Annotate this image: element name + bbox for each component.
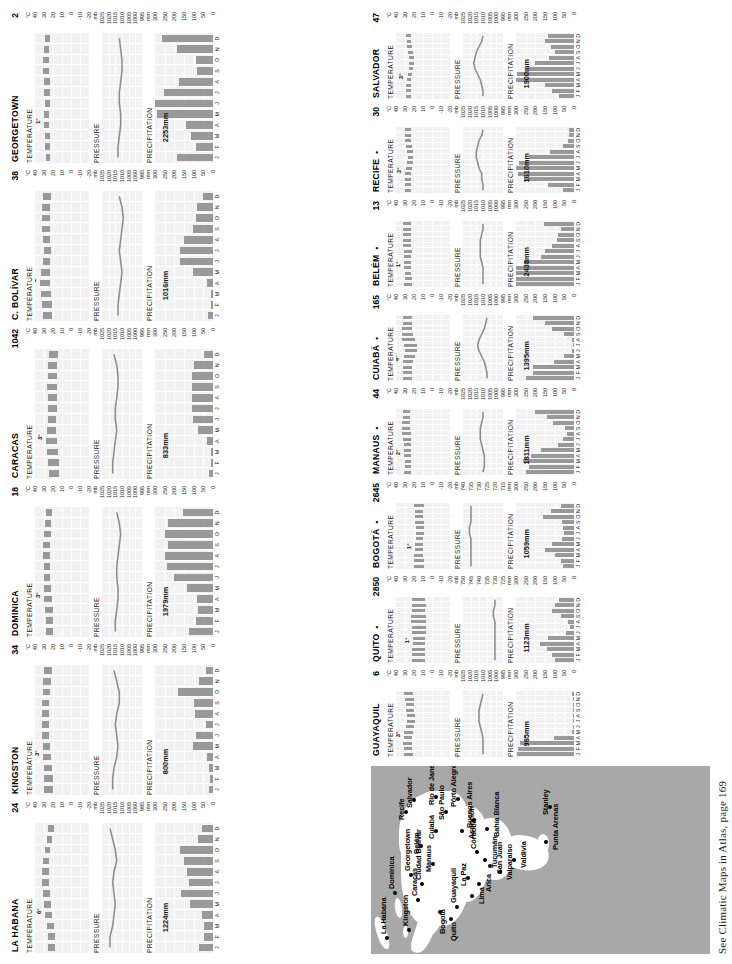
map-city-dot[interactable] xyxy=(385,936,389,940)
precipitation-bar xyxy=(557,238,574,242)
map-city-dot[interactable] xyxy=(475,850,479,854)
station-panel[interactable]: CARACAS1042TEMPERATURE3°°C403020100-10-2… xyxy=(6,324,367,482)
axis-unit: °C xyxy=(25,802,31,808)
station-panel[interactable]: QUITO•2850TEMPERATURE1°°C403020100-10-20… xyxy=(367,572,728,666)
month-label: F xyxy=(213,931,221,942)
station-panel[interactable]: GUAYAQUIL6TEMPERATURE3°°C403020100-10-20… xyxy=(367,666,728,760)
temperature-section: TEMPERATURE4°°C403020100-10-20 xyxy=(386,293,450,381)
month-label: J xyxy=(213,730,221,741)
precipitation-bar xyxy=(198,606,213,614)
temperature-range-annotation: 1° xyxy=(406,543,412,549)
gridline-vertical xyxy=(35,266,89,267)
map-city-dot[interactable] xyxy=(477,882,481,886)
station-panel[interactable]: C. BOLÍVAR38TEMPERATURE2°°C403020100-10-… xyxy=(6,166,367,324)
temperature-section: TEMPERATURE2°°C403020100-10-20 xyxy=(386,387,450,475)
precipitation-bar xyxy=(518,747,574,751)
map-city-dot[interactable] xyxy=(409,873,413,877)
gridline-vertical xyxy=(35,255,89,256)
station-panel[interactable]: GEORGETOWN2TEMPERATURE1°°C403020100-10-2… xyxy=(6,8,367,166)
month-label: J xyxy=(574,348,582,354)
station-panel[interactable]: MANAUS•44TEMPERATURE2°°C403020100-10-20P… xyxy=(367,384,728,478)
precipitation-bar xyxy=(552,653,574,657)
gridline-vertical xyxy=(396,187,450,188)
pressure-curve xyxy=(102,349,142,479)
gridline-vertical xyxy=(396,132,450,133)
pressure-title: PRESSURE xyxy=(92,801,101,953)
axis-tick: 1000 xyxy=(132,170,138,182)
axis-tick: 150 xyxy=(181,802,187,811)
month-label: N xyxy=(574,415,582,421)
map-city-dot[interactable] xyxy=(483,858,487,862)
station-altitude: 1042 xyxy=(10,327,20,348)
station-panel[interactable]: LA HABANA24TEMPERATURE6°°C403020100-10-2… xyxy=(6,798,367,956)
station-panel[interactable]: RECIFE•30TEMPERATURE3°°C403020100-10-20P… xyxy=(367,102,728,196)
gridline-vertical xyxy=(396,707,450,708)
axis-unit: °C xyxy=(386,388,392,394)
month-label: A xyxy=(213,76,221,87)
map-city-dot[interactable] xyxy=(470,894,474,898)
gridline-vertical xyxy=(35,604,89,605)
axis-tick: 100 xyxy=(552,294,558,303)
map-city-dot[interactable] xyxy=(407,928,411,932)
temperature-range-bar xyxy=(408,51,413,54)
map-city-dot[interactable] xyxy=(449,917,453,921)
month-label: M xyxy=(574,166,582,172)
month-label: J xyxy=(213,719,221,730)
temperature-axis: °C403020100-10-20 xyxy=(396,105,450,127)
temperature-section: TEMPERATURE3°°C403020100-10-20 xyxy=(25,485,89,637)
map-city-dot[interactable] xyxy=(420,882,424,886)
station-header: SALVADOR47 xyxy=(371,11,383,99)
gridline-horizontal xyxy=(184,823,185,953)
pressure-axis: mb102510201015101010051000995 xyxy=(102,643,142,665)
gridline-vertical xyxy=(155,151,213,152)
temperature-range-bar xyxy=(408,73,413,76)
map-city-dot[interactable] xyxy=(455,905,459,909)
precipitation-bar xyxy=(533,371,574,375)
pressure-curve xyxy=(102,33,142,163)
plot-area: 3° xyxy=(396,127,450,193)
temperature-range-bar xyxy=(404,261,411,264)
map-city-dot[interactable] xyxy=(485,827,489,831)
station-panel[interactable]: DOMINICA18TEMPERATURE3°°C403020100-10-20… xyxy=(6,482,367,640)
station-panel[interactable]: BELÉM•13TEMPERATURE1°°C403020100-10-20PR… xyxy=(367,196,728,290)
precipitation-bar xyxy=(191,132,213,140)
gridline-vertical xyxy=(155,783,213,784)
station-panel[interactable]: KINGSTON34TEMPERATURE3°°C403020100-10-20… xyxy=(6,640,367,798)
month-label: D xyxy=(213,191,221,202)
month-label: O xyxy=(574,514,582,520)
station-name: CARACAS xyxy=(10,433,20,478)
axis-tick: 50 xyxy=(561,200,567,206)
temperature-range-bar xyxy=(406,725,414,728)
station-panel[interactable]: SALVADOR47TEMPERATURE3°°C403020100-10-20… xyxy=(367,8,728,102)
station-panel[interactable]: CUIABÁ•165TEMPERATURE4°°C403020100-10-20… xyxy=(367,290,728,384)
temperature-range-bar xyxy=(412,659,425,662)
gridline-vertical xyxy=(396,734,450,735)
station-panel[interactable]: BOGOTÁ•2645TEMPERATURE1°°C403020100-10-2… xyxy=(367,478,728,572)
precipitation-bar xyxy=(186,121,213,129)
month-label: O xyxy=(574,608,582,614)
station-altitude: 30 xyxy=(371,105,381,117)
month-label: J xyxy=(574,630,582,636)
month-label: M xyxy=(574,260,582,266)
gridline-vertical xyxy=(155,467,213,468)
axis-tick: 1015 xyxy=(112,644,118,656)
map-city-dot[interactable] xyxy=(488,864,492,868)
month-axis-labels: JFMAMJJASOND xyxy=(213,665,221,795)
axis-tick: 1015 xyxy=(473,106,479,118)
axis-unit: mb xyxy=(453,294,459,302)
month-axis-labels: JFMAMJJASOND xyxy=(213,191,221,321)
month-label: O xyxy=(213,371,221,382)
map-city-dot[interactable] xyxy=(544,840,548,844)
map-city-dot[interactable] xyxy=(498,870,502,874)
map-city-dot[interactable] xyxy=(512,858,516,862)
map-city-dot[interactable] xyxy=(393,891,397,895)
south-america-locator-map[interactable]: La HabanaKingstonDominicaCaracasGeorgeto… xyxy=(371,766,710,954)
axis-tick: 40 xyxy=(393,670,399,676)
temperature-range-bar xyxy=(43,678,51,685)
precipitation-axis: mm300250200150100500 xyxy=(516,105,574,127)
axis-tick: 1020 xyxy=(106,328,112,340)
map-city-dot[interactable] xyxy=(460,829,464,833)
axis-tick: 40 xyxy=(32,802,38,808)
temperature-range-annotation: 6° xyxy=(36,908,42,914)
map-city-dot[interactable] xyxy=(416,898,420,902)
